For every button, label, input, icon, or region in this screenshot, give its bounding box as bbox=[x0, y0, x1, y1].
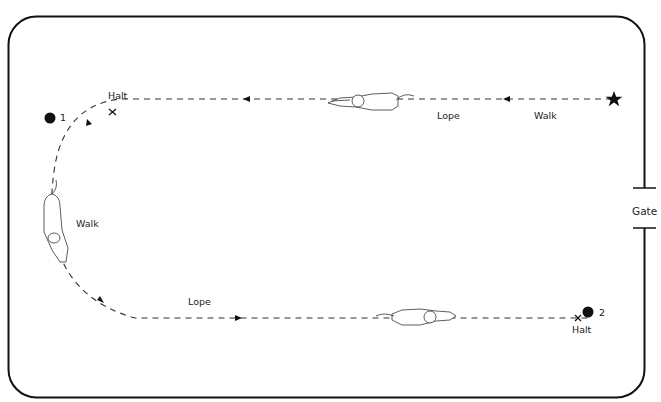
label-top-lope: Lope bbox=[437, 111, 460, 121]
arrow-left-icon bbox=[243, 96, 250, 102]
star-icon bbox=[606, 91, 623, 106]
label-left-walk: Walk bbox=[76, 219, 99, 229]
marker-1-dot-icon bbox=[45, 113, 56, 124]
label-top-walk: Walk bbox=[534, 111, 557, 121]
label-bottom-lope: Lope bbox=[188, 297, 211, 307]
marker-2-dot-icon bbox=[583, 307, 594, 318]
halt-x-icon bbox=[109, 109, 116, 115]
arena-border bbox=[9, 17, 645, 398]
horse-top-icon bbox=[328, 93, 414, 110]
label-marker-1: 1 bbox=[60, 113, 66, 123]
direction-arrows bbox=[86, 96, 510, 321]
halt-marks bbox=[109, 109, 581, 321]
pattern-diagram bbox=[0, 0, 661, 402]
gate-label: Gate bbox=[632, 206, 657, 217]
arrow-left-icon bbox=[503, 96, 510, 102]
label-top-halt: Halt bbox=[108, 91, 127, 101]
label-marker-2: 2 bbox=[599, 308, 605, 318]
arrow-down-right-icon bbox=[97, 296, 104, 303]
arrow-right-icon bbox=[235, 315, 242, 321]
pattern-path bbox=[52, 99, 613, 318]
horse-bottom-icon bbox=[376, 309, 456, 325]
horse-left-icon bbox=[44, 180, 68, 262]
arrow-down-left-icon bbox=[86, 119, 92, 126]
label-bottom-halt: Halt bbox=[572, 325, 591, 335]
